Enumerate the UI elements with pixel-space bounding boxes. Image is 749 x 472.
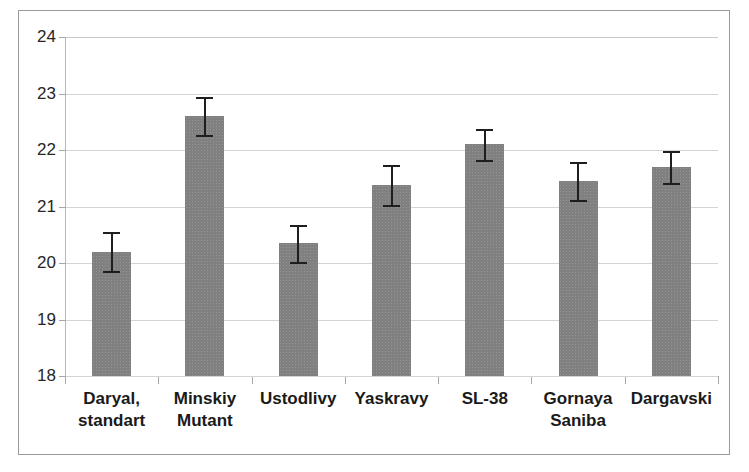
x-label-line1: Dargavski	[631, 389, 712, 408]
x-tick-mark	[718, 377, 719, 384]
y-tick-mark-21	[59, 207, 66, 208]
y-tick-label-23: 23	[20, 85, 56, 102]
gridline-23	[65, 94, 718, 95]
x-axis-category-label: Daryal,standart	[65, 388, 158, 432]
x-label-line2: standart	[65, 410, 158, 432]
errorbar-cap-upper	[476, 129, 493, 131]
x-tick-mark	[531, 377, 532, 384]
errorbar-cap-upper	[290, 225, 307, 227]
errorbar-cap-lower	[476, 160, 493, 162]
y-tick-label-18: 18	[20, 367, 56, 384]
errorbar-cap-upper	[383, 165, 400, 167]
gridline-22	[65, 150, 718, 151]
errorbar-cap-lower	[290, 262, 307, 264]
x-axis-category-label: SL-38	[438, 388, 531, 410]
x-label-line1: Ustodlivy	[260, 389, 337, 408]
errorbar-cap-upper	[103, 232, 120, 234]
x-label-line1: SL-38	[462, 389, 508, 408]
errorbar-cap-lower	[663, 183, 680, 185]
y-tick-label-24: 24	[20, 28, 56, 45]
y-axis-tick-labels: 24232221201918	[18, 0, 56, 472]
bar	[185, 116, 224, 376]
x-tick-mark	[438, 377, 439, 384]
errorbar-stem	[111, 232, 113, 272]
y-tick-label-21: 21	[20, 198, 56, 215]
gridline-24	[65, 37, 718, 38]
y-tick-label-19: 19	[20, 311, 56, 328]
y-tick-mark-23	[59, 94, 66, 95]
errorbar-cap-lower	[103, 271, 120, 273]
errorbar-cap-upper	[663, 151, 680, 153]
x-axis-category-label: Ustodlivy	[252, 388, 345, 410]
bar	[372, 185, 411, 376]
y-tick-mark-19	[59, 320, 66, 321]
x-axis-category-label: Dargavski	[625, 388, 718, 410]
x-label-line1: Minskiy	[174, 389, 236, 408]
bar	[652, 167, 691, 376]
errorbar-stem	[484, 129, 486, 161]
errorbar-stem	[204, 97, 206, 134]
x-label-line1: Gornaya	[544, 389, 613, 408]
errorbar-stem	[297, 225, 299, 262]
errorbar-cap-upper	[570, 162, 587, 164]
errorbar-cap-lower	[383, 205, 400, 207]
gridline-18	[65, 376, 718, 377]
y-tick-mark-22	[59, 150, 66, 151]
errorbar-cap-upper	[196, 97, 213, 99]
errorbar-cap-lower	[196, 135, 213, 137]
bar	[559, 181, 598, 376]
x-axis-category-label: Yaskravy	[345, 388, 438, 410]
chart-figure: 24232221201918 Daryal,standartMinskiyMut…	[0, 0, 749, 472]
x-label-line1: Daryal,	[83, 389, 140, 408]
errorbar-cap-lower	[570, 200, 587, 202]
x-tick-mark	[345, 377, 346, 384]
x-axis-tick-labels: Daryal,standartMinskiyMutantUstodlivyYas…	[65, 388, 718, 450]
x-label-line2: Saniba	[531, 410, 624, 432]
x-tick-mark	[252, 377, 253, 384]
x-axis-category-label: GornayaSaniba	[531, 388, 624, 432]
errorbar-stem	[391, 165, 393, 205]
x-axis-category-label: MinskiyMutant	[158, 388, 251, 432]
x-tick-mark	[158, 377, 159, 384]
plot-area	[65, 37, 718, 376]
y-tick-label-20: 20	[20, 254, 56, 271]
bar	[465, 144, 504, 376]
errorbar-stem	[670, 151, 672, 183]
y-tick-mark-20	[59, 263, 66, 264]
y-tick-mark-24	[59, 37, 66, 38]
x-label-line1: Yaskravy	[355, 389, 429, 408]
y-tick-label-22: 22	[20, 141, 56, 158]
x-tick-mark	[65, 377, 66, 384]
x-label-line2: Mutant	[158, 410, 251, 432]
x-tick-mark	[625, 377, 626, 384]
errorbar-stem	[577, 162, 579, 199]
